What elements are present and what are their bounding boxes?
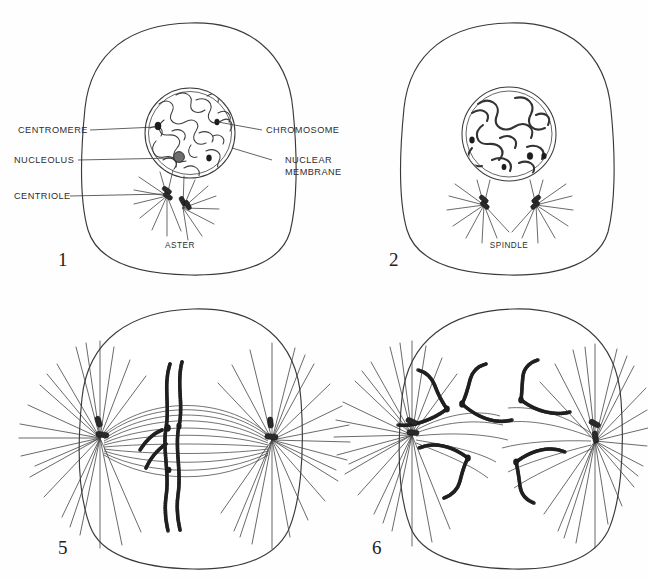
- panel-2: SPINDLE 2: [389, 23, 614, 275]
- label-nuclear-membrane-line1: NUCLEAR: [285, 155, 332, 165]
- nucleolus-body-1: [174, 152, 185, 163]
- panel-number-5: 5: [58, 537, 68, 558]
- panel-1: ASTER 1: [58, 23, 296, 275]
- nuclear-membrane-1: [145, 88, 235, 178]
- panel-number-6: 6: [372, 537, 382, 558]
- label-chromosome: CHROMOSOME: [266, 125, 339, 135]
- centromere-dot: [542, 153, 547, 159]
- centromere-dot: [527, 152, 533, 159]
- label-centromere: CENTROMERE: [18, 125, 88, 135]
- centromere-dot: [207, 155, 212, 161]
- panel-number-1: 1: [58, 249, 68, 270]
- label-nucleolus: NUCLEOLUS: [14, 155, 74, 165]
- panel-6: 6: [334, 309, 648, 569]
- centromere-dot: [470, 137, 475, 144]
- label-nuclear-membrane-line2: MEMBRANE: [285, 167, 342, 177]
- spindle-label: SPINDLE: [490, 241, 529, 250]
- figure-canvas: ASTER 1: [0, 0, 648, 580]
- mitosis-figure: ASTER 1: [0, 0, 648, 580]
- centromere-dot: [155, 122, 161, 130]
- panel-5: 5: [19, 309, 350, 569]
- centromere-dot: [502, 164, 506, 170]
- panel-number-2: 2: [389, 249, 399, 270]
- label-centriole: CENTRIOLE: [14, 191, 71, 201]
- aster-label: ASTER: [165, 241, 195, 250]
- callout-labels-left: CENTROMERE NUCLEOLUS CENTRIOLE: [14, 125, 88, 201]
- cell-membrane-outline-6: [399, 309, 622, 569]
